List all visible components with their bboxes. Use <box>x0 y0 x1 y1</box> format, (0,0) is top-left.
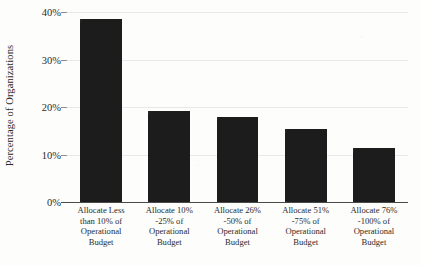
x-axis-category-label-line: -25% of <box>136 216 202 227</box>
y-axis-tick-label: 20% <box>19 102 61 113</box>
x-axis-category-label-line: Budget <box>68 237 134 248</box>
x-axis-category-label: Allocate 76%-100% ofOperationalBudget <box>340 205 408 263</box>
x-axis-category-label-line: Operational <box>341 226 407 237</box>
gridline <box>67 12 408 13</box>
bar <box>217 117 259 202</box>
bar <box>353 148 395 202</box>
y-axis-tick-labels: 0%10%20%30%40% <box>15 12 61 202</box>
x-axis-category-label-line: Allocate 26% <box>204 205 270 216</box>
y-axis-tick-mark <box>61 12 67 13</box>
bar <box>285 129 327 202</box>
x-axis-category-label-line: Allocate 51% <box>273 205 339 216</box>
y-axis-tick-label: 40% <box>19 7 61 18</box>
x-axis-category-label-line: Allocate 10% <box>136 205 202 216</box>
x-axis-category-label-line: Operational <box>204 226 270 237</box>
x-axis-category-label-line: Operational <box>68 226 134 237</box>
x-axis-category-label-line: Budget <box>136 237 202 248</box>
x-axis-category-label-line: Allocate 76% <box>341 205 407 216</box>
x-axis-category-label: Allocate 26%-50% ofOperationalBudget <box>203 205 271 263</box>
x-axis-category-label-line: -75% of <box>273 216 339 227</box>
x-axis-category-label: Allocate Lessthan 10% ofOperationalBudge… <box>67 205 135 263</box>
bar <box>148 111 190 202</box>
bar <box>80 19 122 202</box>
x-axis-category-label-line: -50% of <box>204 216 270 227</box>
y-axis-tick-mark <box>61 60 67 61</box>
y-axis-title-label: Percentage of Organizations <box>5 44 16 165</box>
x-axis-category-label-line: Allocate Less <box>68 205 134 216</box>
x-axis-category-label: Allocate 10%-25% ofOperationalBudget <box>135 205 203 263</box>
x-axis-category-label-line: than 10% of <box>68 216 134 227</box>
x-axis-category-label-line: Operational <box>136 226 202 237</box>
bar-chart: Percentage of Organizations 0%10%20%30%4… <box>0 0 421 266</box>
x-axis-category-label: Allocate 51%-75% ofOperationalBudget <box>272 205 340 263</box>
x-axis-category-labels: Allocate Lessthan 10% ofOperationalBudge… <box>67 205 408 263</box>
y-axis-tick-label: 0% <box>19 197 61 208</box>
x-axis-category-label-line: Operational <box>273 226 339 237</box>
plot-area <box>67 12 408 202</box>
y-axis-tick-mark <box>61 107 67 108</box>
x-axis-category-label-line: Budget <box>341 237 407 248</box>
x-axis-baseline <box>61 202 408 203</box>
y-axis-tick-mark <box>61 155 67 156</box>
y-axis-tick-label: 10% <box>19 149 61 160</box>
x-axis-category-label-line: Budget <box>204 237 270 248</box>
y-axis-tick-label: 30% <box>19 54 61 65</box>
x-axis-category-label-line: -100% of <box>341 216 407 227</box>
x-axis-category-label-line: Budget <box>273 237 339 248</box>
